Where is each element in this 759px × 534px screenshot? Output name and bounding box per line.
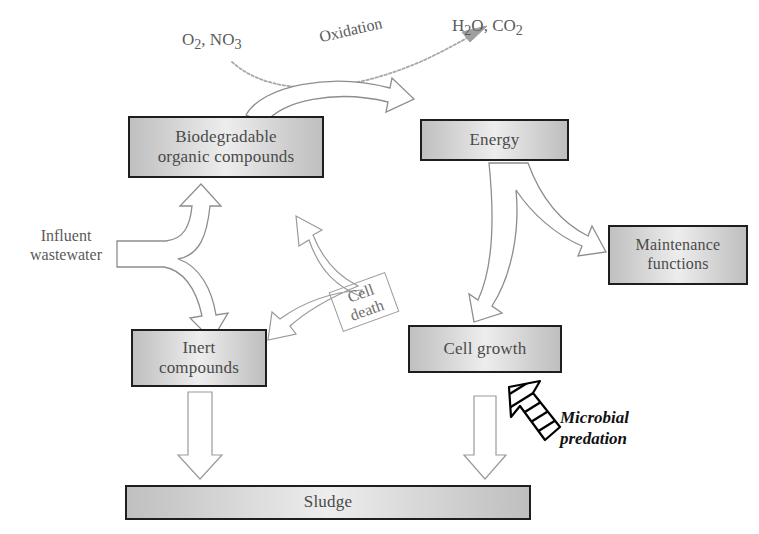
box-maintenance-line2: functions xyxy=(647,255,708,272)
reactants-label: O2, NO3 xyxy=(182,30,302,53)
energy-fork-arrow xyxy=(469,163,606,322)
box-inert-line2: compounds xyxy=(159,358,239,377)
predation-line1: Microbial xyxy=(560,408,629,427)
cell-death-label: Cell death xyxy=(329,272,400,332)
box-biodegradable-line2: organic compounds xyxy=(158,147,295,166)
products-text: H2O, CO2 xyxy=(452,16,523,35)
box-biodegradable-line1: Biodegradable xyxy=(175,127,277,146)
box-inert-line1: Inert xyxy=(182,338,215,357)
cellgrowth-to-sludge-arrow xyxy=(464,396,506,479)
oxidation-label: Oxidation xyxy=(290,7,411,53)
box-energy[interactable]: Energy xyxy=(420,119,569,161)
box-sludge-label: Sludge xyxy=(300,492,356,512)
reactants-text: O2, NO3 xyxy=(182,30,242,49)
microbial-predation-label: Microbial predation xyxy=(560,407,690,450)
diagram-canvas: O2, NO3 Oxidation H2O, CO2 Biodegradable… xyxy=(0,0,759,534)
box-biodegradable-organic-compounds[interactable]: Biodegradable organic compounds xyxy=(128,116,324,178)
box-maintenance-line1: Maintenance xyxy=(636,236,721,253)
box-maintenance-functions[interactable]: Maintenance functions xyxy=(608,225,748,285)
inert-to-sludge-arrow xyxy=(178,392,222,479)
influent-line2: wastewater xyxy=(30,246,102,263)
box-cellgrowth-label: Cell growth xyxy=(440,339,531,359)
predation-line2: predation xyxy=(560,429,627,448)
box-sludge[interactable]: Sludge xyxy=(125,485,531,520)
products-label: H2O, CO2 xyxy=(452,16,582,39)
box-energy-label: Energy xyxy=(466,130,524,150)
influent-line1: Influent xyxy=(41,227,92,244)
box-inert-compounds[interactable]: Inert compounds xyxy=(131,329,267,387)
influent-wastewater-label: Influent wastewater xyxy=(14,226,118,264)
box-cell-growth[interactable]: Cell growth xyxy=(408,325,562,373)
influent-fork-arrow xyxy=(117,184,228,340)
